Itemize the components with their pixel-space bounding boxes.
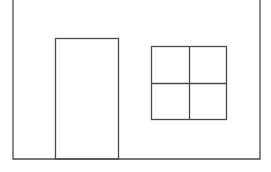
house-wall (13, 0, 260, 159)
door (56, 39, 119, 160)
house-diagram-svg (0, 0, 271, 172)
house-drawing (0, 0, 271, 172)
